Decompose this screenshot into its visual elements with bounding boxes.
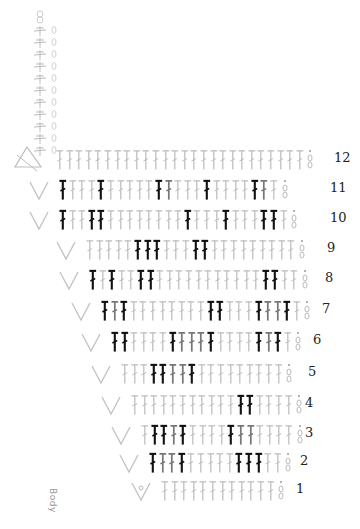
stitch-icon (87, 208, 97, 232)
stitch-icon (104, 238, 114, 262)
stitch-icon (254, 362, 264, 386)
stitch-icon (135, 178, 145, 202)
stitch-icon (256, 148, 266, 172)
stitch-icon (129, 299, 139, 323)
stitch-icon (119, 299, 129, 323)
stitch-icon (155, 268, 165, 292)
stitch-icon (274, 362, 284, 386)
stitch-icon (148, 330, 158, 354)
stitch-icon (255, 423, 265, 447)
stitch-icon (245, 393, 255, 417)
chain-turn-icon (295, 394, 303, 416)
stitch-icon (235, 362, 245, 386)
stitch-icon (231, 178, 241, 202)
stitch-icon (95, 238, 105, 262)
stitch-icon (171, 238, 181, 262)
chart-row-3 (110, 422, 304, 448)
stitch-icon (191, 238, 201, 262)
stitch-icon (273, 451, 283, 475)
stitch-icon (177, 330, 187, 354)
stitch-icon (189, 148, 199, 172)
stitch-icon (88, 268, 98, 292)
stitch-icon (161, 148, 171, 172)
row-number: 4 (305, 395, 313, 410)
stitch-icon (206, 330, 216, 354)
stitch-icon (245, 362, 255, 386)
stitch-icon (215, 451, 225, 475)
chain-turn-icon (284, 452, 292, 474)
stitch-icon (196, 299, 206, 323)
v-increase-icon (80, 331, 102, 353)
stitch-icon (186, 299, 196, 323)
stitch-icon (221, 178, 231, 202)
stitch-icon (125, 208, 135, 232)
stitch-icon (274, 393, 284, 417)
body-label: Body (48, 488, 58, 513)
stitch-icon (87, 178, 97, 202)
stitch-icon (234, 299, 244, 323)
stitch-icon (138, 299, 148, 323)
stitch-icon (263, 451, 273, 475)
stitch-icon (110, 330, 120, 354)
stitch-icon (164, 208, 174, 232)
stitch-icon (168, 362, 178, 386)
stitch-icon (140, 423, 150, 447)
stitch-icon (219, 238, 229, 262)
v-increase-icon (28, 179, 50, 201)
stitch-icon (215, 299, 225, 323)
stitch-icon (120, 330, 130, 354)
stitch-icon (236, 393, 246, 417)
stitch-icon (261, 268, 271, 292)
stitch-icon (226, 362, 236, 386)
stitch-icon (167, 299, 177, 323)
stitch-icon (84, 148, 94, 172)
stitch-icon (280, 268, 290, 292)
stitch-icon (206, 299, 216, 323)
stitch-icon (192, 178, 202, 202)
stitch-icon (143, 238, 153, 262)
stitch-icon (239, 238, 249, 262)
stitch-icon (244, 451, 254, 475)
stitch-icon (180, 148, 190, 172)
stitch-icon (151, 148, 161, 172)
stitch-icon (196, 451, 206, 475)
stitch-icon (179, 479, 189, 503)
stitch-icon (225, 451, 235, 475)
stitch-icon (207, 423, 217, 447)
stitch-icon (154, 208, 164, 232)
stitch-icon (284, 423, 294, 447)
stitch-icon (269, 208, 279, 232)
stitch-icon (270, 268, 280, 292)
stitch-icon (225, 330, 235, 354)
stitch-icon (274, 423, 284, 447)
stitch-icon (133, 238, 143, 262)
stitch-icon (264, 362, 274, 386)
stitch-icon (212, 178, 222, 202)
stitch-icon (225, 299, 235, 323)
stitch-icon (117, 268, 127, 292)
chart-row-4 (100, 392, 303, 418)
stitch-icon (158, 362, 168, 386)
stitch-icon (129, 330, 139, 354)
stitch-icon (116, 208, 126, 232)
stitch-icon (178, 423, 188, 447)
v-increase-icon (110, 424, 132, 446)
stitch-icon (295, 148, 305, 172)
stitch-icon (273, 299, 283, 323)
stitch-icon (141, 148, 151, 172)
stitch-icon (126, 268, 136, 292)
stitch-icon (265, 423, 275, 447)
stitch-icon (240, 178, 250, 202)
stitch-icon (197, 393, 207, 417)
chain-turn-icon (306, 149, 314, 171)
stitch-icon (135, 208, 145, 232)
chain-turn-icon (277, 480, 285, 502)
stitch-icon (186, 451, 196, 475)
chart-row-12 (55, 147, 314, 173)
stitch-icon (277, 238, 287, 262)
stitch-icon (266, 479, 276, 503)
stitch-icon (165, 268, 175, 292)
v-increase-icon (130, 480, 152, 502)
stitch-icon (169, 423, 179, 447)
stitch-icon (139, 330, 149, 354)
